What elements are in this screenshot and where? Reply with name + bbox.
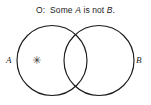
asterisk-mark-icon: ✳ — [31, 54, 42, 67]
set-label-a: A — [6, 55, 12, 65]
set-circle-b — [64, 26, 134, 96]
venn-circles-svg — [0, 0, 151, 105]
set-label-b: B — [136, 55, 142, 65]
venn-diagram-figure: O: Some A is not B. A B ✳ — [0, 0, 151, 105]
set-circle-a — [17, 26, 87, 96]
